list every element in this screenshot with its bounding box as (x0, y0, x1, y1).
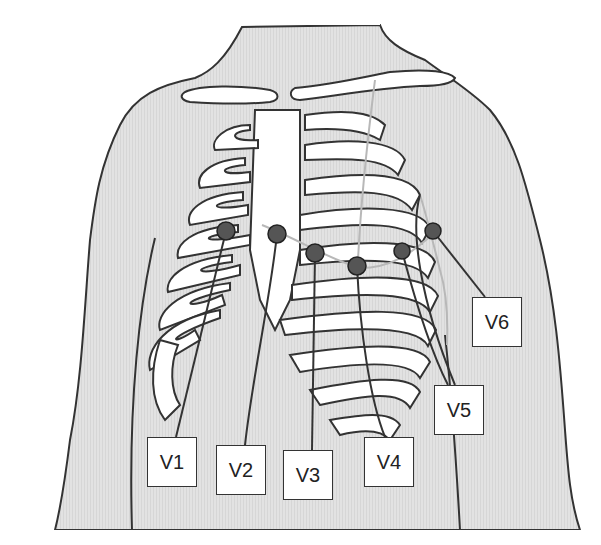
electrode-v6 (425, 223, 441, 239)
electrode-v5 (394, 243, 410, 259)
lead-label-v2: V2 (216, 445, 266, 495)
electrode-v3 (306, 244, 324, 262)
lead-label-v3: V3 (283, 450, 333, 500)
lead-label-text: V6 (485, 311, 509, 334)
lead-label-v1: V1 (147, 437, 197, 487)
lead-label-v5: V5 (434, 385, 484, 435)
lead-label-text: V5 (447, 399, 471, 422)
lead-label-text: V4 (377, 451, 401, 474)
electrode-v2 (268, 225, 286, 243)
electrode-v1 (217, 222, 235, 240)
lead-label-v6: V6 (472, 297, 522, 347)
lead-label-text: V1 (160, 451, 184, 474)
lead-label-text: V2 (229, 459, 253, 482)
lead-label-v4: V4 (364, 437, 414, 487)
lead-label-text: V3 (296, 464, 320, 487)
electrode-v4 (348, 257, 366, 275)
